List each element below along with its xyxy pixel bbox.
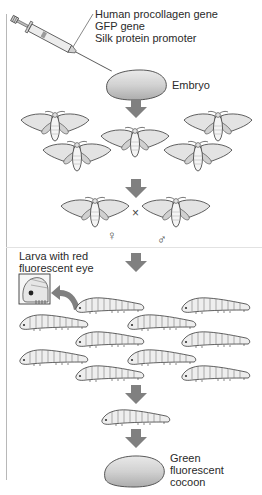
larva-eye-inset [19,274,50,304]
cocoon-label-line-2: fluorescent [170,464,224,476]
down-arrow-icon [125,385,147,404]
down-arrow-icon [125,99,147,118]
male-symbol: ♂ [157,233,167,246]
down-arrow-icon [125,429,147,448]
larva-eye-label: Larva with red fluorescent eye [19,250,94,274]
embryo-egg [107,70,167,100]
embryo-label: Embryo [172,79,210,91]
gene-label-gfp: GFP gene [95,20,218,32]
down-arrow-icon [125,179,147,198]
larva-eye-label-line-1: Larva with red [19,250,94,262]
cross-symbol: × [132,207,139,220]
larva-eye-label-line-2: fluorescent eye [19,262,94,274]
gene-label-procollagen: Human procollagen gene [95,8,218,20]
cocoon-label-line-1: Green [170,452,224,464]
larva-population [20,298,250,382]
female-symbol: ♀ [107,229,117,242]
injection-labels: Human procollagen gene GFP gene Silk pro… [95,8,218,44]
green-fluorescent-cocoon [105,456,165,487]
diagram-artwork [0,0,262,495]
curved-arrow-icon [51,285,80,310]
selected-larva [102,410,170,426]
down-arrow-icon [125,253,147,272]
gene-label-promoter: Silk protein promoter [95,32,218,44]
transgenic-moths [21,111,252,171]
cocoon-label: Green fluorescent cocoon [170,452,224,488]
cocoon-label-line-3: cocoon [170,476,224,488]
label-leader-line [73,14,93,47]
